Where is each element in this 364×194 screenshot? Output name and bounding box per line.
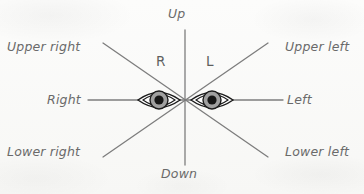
eye-right-tag: R [156, 53, 165, 69]
label-upper-right: Upper right [7, 39, 80, 54]
label-lower-right: Lower right [7, 144, 80, 159]
label-right: Right [47, 92, 81, 107]
label-upper-left: Upper left [285, 39, 349, 54]
eye-left-tag: L [206, 53, 214, 69]
gaze-direction-diagram: Up Down Right Left Upper right Upper lef… [0, 0, 364, 194]
axis-lines [88, 30, 283, 165]
eye-right [138, 91, 180, 109]
label-down: Down [161, 166, 197, 181]
label-lower-left: Lower left [285, 144, 349, 159]
eye-left-pupil [207, 95, 216, 104]
eye-right-pupil [154, 95, 163, 104]
eye-left [191, 91, 233, 109]
label-left: Left [287, 92, 312, 107]
label-up: Up [168, 6, 185, 21]
